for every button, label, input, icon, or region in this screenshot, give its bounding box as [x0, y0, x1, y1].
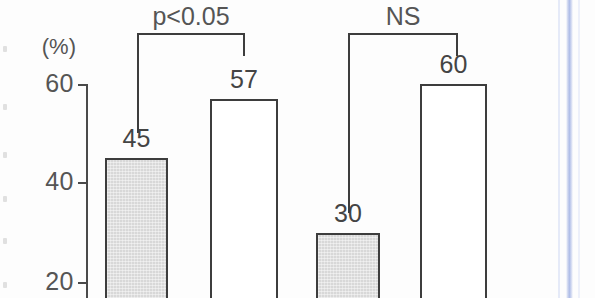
significance-bracket-group-2: [348, 33, 458, 213]
bar-3: [316, 233, 380, 298]
bracket-left-leg: [348, 33, 350, 213]
y-tick-label-40: 40: [45, 169, 74, 194]
edge-artifact: [3, 152, 7, 158]
significance-bracket-group-1: [137, 33, 245, 133]
y-axis-unit-label: (%): [0, 36, 76, 58]
y-tick-group-40: 40: [0, 169, 74, 195]
scan-stripe-outer: [578, 0, 580, 298]
bracket-right-leg: [456, 33, 458, 56]
y-tick-mark-20: [78, 282, 87, 284]
scan-stripe-thin: [558, 0, 560, 298]
y-tick-label-60: 60: [45, 71, 74, 96]
y-tick-mark-40: [78, 182, 87, 184]
bracket-top-rule: [137, 33, 245, 35]
y-tick-label-20: 20: [45, 269, 74, 294]
y-tick-mark-60: [78, 84, 87, 86]
y-axis-line: [86, 84, 88, 298]
bar-chart-figure: (%) 60 40 20 45 57 30 60 p<0.05 NS: [0, 0, 595, 298]
bracket-left-leg: [137, 33, 139, 133]
scan-stripe-main: [566, 0, 573, 298]
y-tick-group-20: 20: [0, 269, 74, 295]
bracket-top-rule: [348, 33, 458, 35]
edge-artifact: [3, 104, 7, 110]
edge-artifact: [3, 238, 7, 244]
bracket-right-leg: [243, 33, 245, 56]
y-tick-group-60: 60: [0, 71, 74, 97]
significance-label-group-1: p<0.05: [121, 4, 261, 29]
edge-artifact: [3, 196, 7, 202]
bar-1: [105, 158, 168, 298]
significance-label-group-2: NS: [333, 4, 473, 29]
